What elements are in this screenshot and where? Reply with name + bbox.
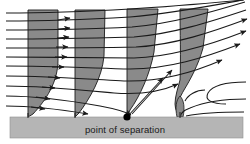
velocity-arrow-3 <box>57 37 69 38</box>
separation-point-dot <box>123 113 130 120</box>
recirculation-curve-2 <box>181 99 246 117</box>
boundary-layer-separation-diagram: point of separation <box>0 0 250 144</box>
recirculation-curve-4 <box>185 90 205 101</box>
profile-1-attached-fill <box>28 10 58 117</box>
diagram-canvas <box>0 0 250 144</box>
recirculation-curve-3 <box>186 112 244 116</box>
streamline-10 <box>6 96 131 115</box>
recirculation-curve-1 <box>207 82 246 104</box>
profile-2-decelerating-fill <box>75 10 105 117</box>
